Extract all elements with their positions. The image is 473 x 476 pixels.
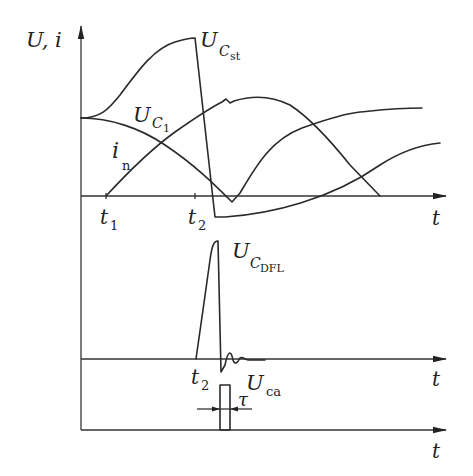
svg-text:U: U [200, 28, 219, 52]
label-i-n: i n [112, 138, 131, 173]
timing-diagram: U, i t t 1 t 2 U C st U C 1 i n t U C [0, 0, 473, 476]
label-u-cdfl: U C DFL [232, 239, 284, 275]
svg-text:U: U [246, 371, 265, 395]
svg-text:1: 1 [163, 122, 170, 135]
svg-text:C: C [152, 115, 163, 131]
svg-text:st: st [230, 50, 241, 63]
y-axis-label: U, i [26, 28, 62, 52]
tick-label-t1: t 1 [100, 205, 118, 233]
bottom-time-axis: t [81, 430, 446, 463]
svg-text:t: t [188, 205, 197, 229]
svg-text:t: t [432, 367, 441, 391]
svg-text:t: t [191, 365, 200, 389]
svg-text:1: 1 [110, 218, 118, 233]
svg-text:n: n [122, 158, 131, 173]
svg-text:2: 2 [198, 218, 206, 233]
svg-text:C: C [219, 43, 230, 59]
tick-label-t2-middle: t 2 [191, 365, 209, 393]
svg-text:i: i [112, 138, 119, 163]
svg-text:ca: ca [266, 384, 281, 399]
curve-u-cst [81, 38, 440, 217]
svg-text:U, i: U, i [26, 28, 62, 52]
svg-text:t: t [100, 205, 109, 229]
svg-text:t: t [432, 206, 441, 230]
svg-text:2: 2 [201, 378, 209, 393]
tick-label-t2: t 2 [188, 205, 206, 233]
svg-text:DFL: DFL [260, 262, 284, 275]
svg-text:U: U [232, 239, 251, 263]
svg-text:t: t [432, 439, 441, 463]
label-u-ca: U ca [246, 371, 281, 399]
svg-text:U: U [133, 103, 152, 127]
pulse-u-ca [220, 385, 230, 430]
label-u-cst: U C st [200, 28, 241, 63]
